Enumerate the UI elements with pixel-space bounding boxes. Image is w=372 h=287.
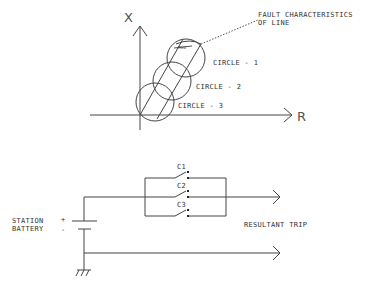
trip-circuit: + - STATION BATTERY C1 C2 (12, 163, 307, 276)
c3-contact-icon (175, 210, 186, 216)
battery-label-1: STATION (12, 217, 44, 225)
battery-label-2: BATTERY (12, 225, 44, 233)
x-axis-label: X (124, 10, 133, 25)
circle-2-label: CIRCLE - 2 (196, 83, 241, 91)
c1-contact-icon (175, 172, 186, 178)
ground-icon (76, 270, 91, 276)
annotation-line1: FAULT CHARACTERISTICS (258, 11, 353, 19)
leader-line (201, 20, 258, 44)
distance-relay-diagram: X R MHO FAULT CHARACTERISTICS OF LINE CI… (0, 0, 372, 287)
small-label: MHO (178, 45, 186, 50)
fault-characteristic-line (140, 39, 183, 115)
circle-3-label: CIRCLE - 3 (178, 102, 223, 110)
c2-contact-icon (175, 191, 186, 197)
c2-label: C2 (177, 182, 186, 190)
characteristic-arc (176, 41, 201, 44)
annotation-line2: OF LINE (258, 19, 290, 27)
c3-label: C3 (177, 201, 186, 209)
r-axis-label: R (297, 109, 306, 124)
c1-label: C1 (177, 163, 186, 171)
battery-minus: - (61, 226, 66, 234)
battery-plus: + (61, 216, 66, 224)
rx-plot: X R MHO FAULT CHARACTERISTICS OF LINE CI… (90, 10, 353, 130)
circle-1-label: CIRCLE - 1 (213, 59, 258, 67)
resultant-trip-label: RESULTANT TRIP (244, 221, 307, 229)
